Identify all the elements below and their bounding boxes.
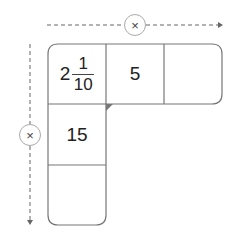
cell-r2c0-answer[interactable]	[48, 165, 106, 225]
fraction-numerator: 1	[79, 55, 88, 73]
cell-r0c0: 2 1 10	[48, 44, 106, 104]
mixed-whole: 2	[60, 63, 71, 85]
cell-r0c2-answer[interactable]	[164, 44, 222, 104]
arrow-down-icon	[27, 220, 33, 225]
cell-r0c1: 5	[106, 44, 164, 104]
multiply-icon-horizontal: ×	[125, 15, 145, 35]
arrow-right-icon	[218, 22, 223, 28]
diagram-canvas	[0, 0, 237, 237]
corner-marker-icon	[106, 104, 113, 111]
fraction-denominator: 10	[74, 76, 93, 94]
multiply-icon-vertical: ×	[20, 125, 40, 145]
cell-r1c0: 15	[48, 104, 106, 165]
fraction: 1 10	[72, 55, 94, 94]
